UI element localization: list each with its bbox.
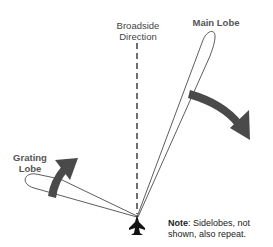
grating-label-line2: Lobe [8,163,52,174]
grating-lobe-shape [25,174,137,217]
note-text: Note: Sidelobes, not shown, also repeat. [168,218,273,240]
main-lobe-shape [137,31,215,217]
broadside-label-line2: Direction [110,31,166,42]
broadside-direction-label: Broadside Direction [110,20,166,42]
note-line1: Note: Sidelobes, not [168,218,273,229]
aircraft-icon [129,215,145,235]
note-title: Note [168,218,188,228]
grating-lobe-label: Grating Lobe [8,152,52,174]
broadside-label-line1: Broadside [110,20,166,31]
main-lobe-label: Main Lobe [186,17,246,28]
grating-label-line1: Grating [8,152,52,163]
note-body-line2: shown, also repeat. [168,229,273,240]
note-body-line1: : Sidelobes, not [188,218,250,228]
main-lobe-arrow-icon [188,90,242,127]
